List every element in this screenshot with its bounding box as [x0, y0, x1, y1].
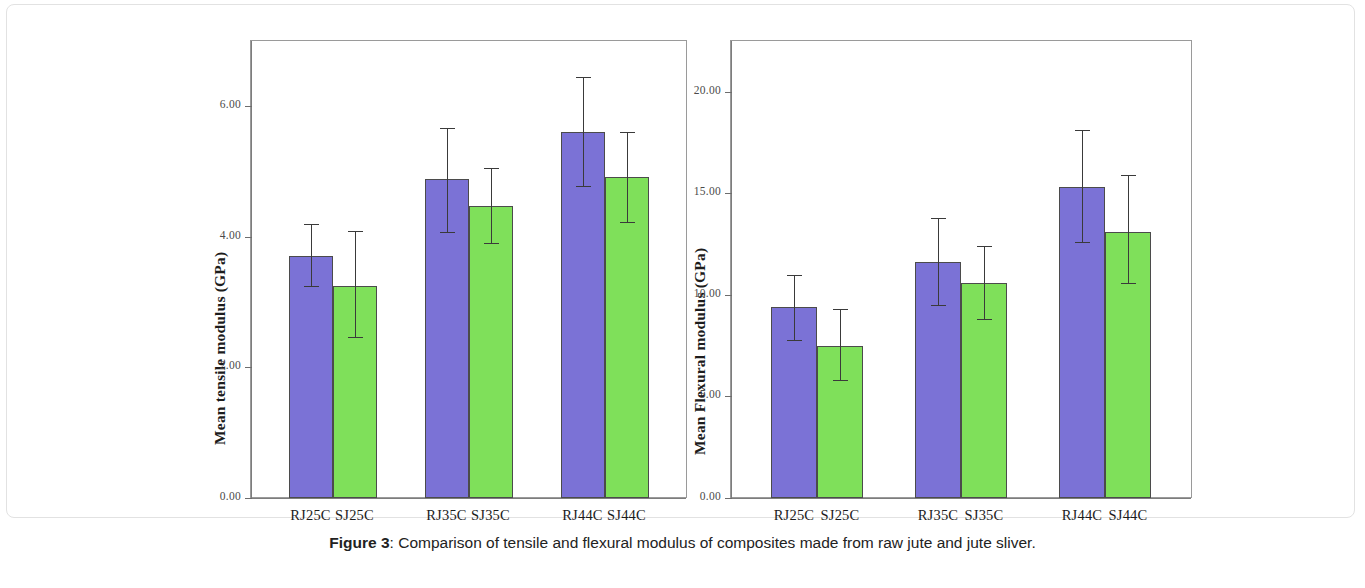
error-bar-SJ35C: [984, 246, 985, 319]
error-bar-RJ25C: [794, 275, 795, 340]
error-bar-RJ25C: [311, 224, 312, 286]
figure-caption-label: Figure 3: [329, 534, 389, 551]
error-bar-cap-lower: [1075, 242, 1090, 243]
y-axis-tick: [245, 498, 252, 499]
error-bar-cap-upper: [304, 224, 319, 225]
y-axis-tick-label: 0.00: [193, 490, 241, 502]
bar-RJ25C: [289, 256, 333, 498]
error-bar-cap-lower: [787, 340, 802, 341]
x-axis-line: [731, 498, 1191, 499]
category-label-SJ44C: SJ44C: [1088, 507, 1168, 524]
error-bar-cap-lower: [348, 337, 363, 338]
y-axis-tick-label: 0.00: [673, 490, 721, 502]
category-label-SJ35C: SJ35C: [944, 507, 1024, 524]
error-bar-cap-lower: [304, 286, 319, 287]
error-bar-RJ35C: [938, 218, 939, 305]
y-axis-tick: [245, 367, 252, 368]
bar-SJ44C: [605, 177, 649, 498]
category-label-SJ25C: SJ25C: [800, 507, 880, 524]
y-axis-tick-label: 2.00: [193, 359, 241, 371]
figure-frame: Mean tensile modulus (GPa) 0.002.004.006…: [6, 4, 1355, 518]
category-label-SJ44C: SJ44C: [587, 507, 667, 524]
error-bar-RJ44C: [583, 77, 584, 186]
error-bar-cap-upper: [833, 309, 848, 310]
error-bar-cap-upper: [348, 231, 363, 232]
error-bar-cap-upper: [440, 128, 455, 129]
error-bar-SJ25C: [355, 231, 356, 337]
y-axis-tick: [725, 193, 732, 194]
y-axis-title-tensile: Mean tensile modulus (GPa): [211, 252, 229, 445]
chart-tensile-modulus: Mean tensile modulus (GPa) 0.002.004.006…: [7, 5, 697, 519]
error-bar-SJ44C: [1128, 175, 1129, 283]
error-bar-cap-lower: [1121, 283, 1136, 284]
error-bar-cap-lower: [931, 305, 946, 306]
error-bar-cap-upper: [977, 246, 992, 247]
error-bar-cap-lower: [977, 319, 992, 320]
figure-page: Mean tensile modulus (GPa) 0.002.004.006…: [0, 0, 1365, 588]
error-bar-RJ44C: [1082, 130, 1083, 242]
error-bar-cap-lower: [833, 380, 848, 381]
error-bar-SJ35C: [491, 168, 492, 242]
y-axis-tick-label: 15.00: [673, 185, 721, 197]
figure-caption: Figure 3: Comparison of tensile and flex…: [0, 534, 1365, 552]
error-bar-SJ44C: [627, 132, 628, 222]
error-bar-cap-upper: [620, 132, 635, 133]
y-axis-tick: [725, 295, 732, 296]
error-bar-cap-upper: [576, 77, 591, 78]
error-bar-cap-lower: [440, 232, 455, 233]
y-axis-tick: [245, 106, 252, 107]
y-axis-tick-label: 5.00: [673, 388, 721, 400]
y-axis-tick-label: 10.00: [673, 287, 721, 299]
error-bar-cap-lower: [484, 243, 499, 244]
y-axis-tick: [725, 396, 732, 397]
y-axis-tick: [725, 92, 732, 93]
category-label-SJ25C: SJ25C: [315, 507, 395, 524]
error-bar-cap-upper: [931, 218, 946, 219]
bar-RJ44C: [561, 132, 605, 498]
y-axis-tick: [245, 237, 252, 238]
error-bar-cap-upper: [787, 275, 802, 276]
y-axis-title-flexural: Mean Flexural modulus (GPa): [691, 248, 709, 455]
error-bar-cap-lower: [576, 186, 591, 187]
error-bar-cap-upper: [484, 168, 499, 169]
y-axis-tick: [725, 498, 732, 499]
error-bar-cap-upper: [1121, 175, 1136, 176]
y-axis-tick-label: 6.00: [193, 98, 241, 110]
error-bar-RJ35C: [447, 128, 448, 232]
category-label-SJ35C: SJ35C: [451, 507, 531, 524]
figure-caption-separator: :: [390, 534, 399, 551]
y-axis-tick-label: 4.00: [193, 229, 241, 241]
y-axis-tick-label: 20.00: [673, 84, 721, 96]
chart-flexural-modulus: Mean Flexural modulus (GPa) 0.005.0010.0…: [697, 5, 1356, 519]
y-axis-line: [731, 41, 732, 498]
bar-SJ35C: [469, 206, 513, 498]
x-axis-line: [251, 498, 686, 499]
error-bar-cap-upper: [1075, 130, 1090, 131]
y-axis-line: [251, 41, 252, 498]
error-bar-SJ25C: [840, 309, 841, 380]
error-bar-cap-lower: [620, 222, 635, 223]
figure-caption-text: Comparison of tensile and flexural modul…: [398, 534, 1036, 551]
